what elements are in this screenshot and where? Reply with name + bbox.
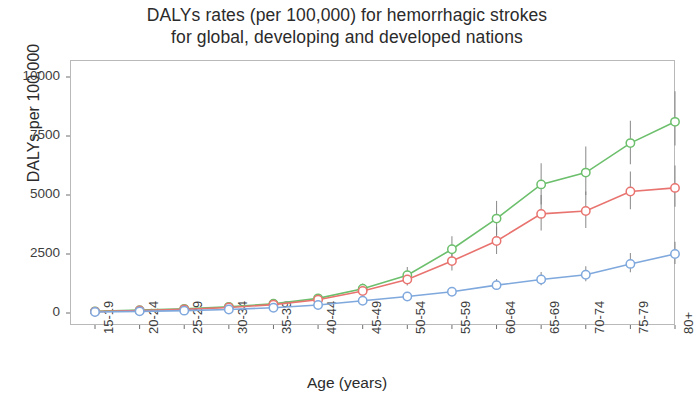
data-point-marker [492, 214, 500, 222]
data-point-marker [358, 287, 366, 295]
series-line-developing [95, 122, 675, 312]
data-point-marker [403, 292, 411, 300]
data-point-marker [269, 303, 277, 311]
series-global [91, 184, 679, 316]
series-line-developed [95, 254, 675, 312]
data-point-marker [91, 308, 99, 316]
data-point-marker [180, 306, 188, 314]
data-point-marker [537, 210, 545, 218]
data-point-marker [448, 245, 456, 253]
data-point-marker [492, 281, 500, 289]
data-point-marker [314, 301, 322, 309]
data-point-marker [358, 297, 366, 305]
data-point-marker [671, 184, 679, 192]
errorbar-group-developing [229, 91, 675, 308]
data-point-marker [537, 275, 545, 283]
data-point-marker [582, 207, 590, 215]
chart-plot-svg [0, 0, 694, 400]
data-point-marker [403, 275, 411, 283]
data-point-marker [626, 260, 634, 268]
data-point-marker [448, 257, 456, 265]
data-point-marker [448, 288, 456, 296]
data-point-marker [626, 187, 634, 195]
data-point-marker [582, 168, 590, 176]
data-point-marker [135, 307, 143, 315]
data-point-marker [582, 271, 590, 279]
data-point-marker [671, 118, 679, 126]
data-point-marker [492, 237, 500, 245]
data-point-marker [671, 250, 679, 258]
series-line-global [95, 188, 675, 312]
data-point-marker [225, 305, 233, 313]
data-point-marker [537, 180, 545, 188]
series-developed [91, 250, 679, 316]
data-point-marker [626, 139, 634, 147]
chart-container: DALYs rates (per 100,000) for hemorrhagi… [0, 0, 694, 400]
